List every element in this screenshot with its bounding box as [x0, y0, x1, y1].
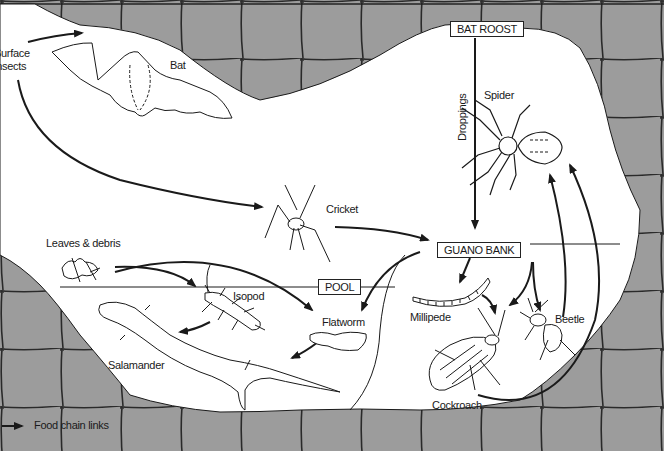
label-beetle: Beetle	[555, 313, 584, 325]
label-surface-insects-line2: insects	[0, 60, 26, 72]
label-droppings: Droppings	[456, 94, 468, 141]
legend-label: Food chain links	[34, 419, 109, 431]
label-isopod: Isopod	[233, 290, 264, 302]
habitat-box-bat-roost: BAT ROOST	[450, 21, 524, 37]
label-spider: Spider	[484, 89, 514, 101]
label-flatworm: Flatworm	[322, 316, 365, 328]
habitat-box-pool: POOL	[318, 279, 361, 295]
label-millipede: Millipede	[410, 311, 451, 323]
label-cricket: Cricket	[326, 203, 358, 215]
label-bat: Bat	[170, 59, 186, 71]
label-leaves-debris: Leaves & debris	[46, 237, 120, 249]
label-surface-insects-line1: Surface	[0, 47, 30, 59]
label-cockroach: Cockroach	[432, 399, 482, 411]
habitat-box-guano-bank: GUANO BANK	[437, 242, 521, 258]
cave-diagram-canvas	[0, 0, 664, 451]
label-salamander: Salamander	[108, 359, 164, 371]
